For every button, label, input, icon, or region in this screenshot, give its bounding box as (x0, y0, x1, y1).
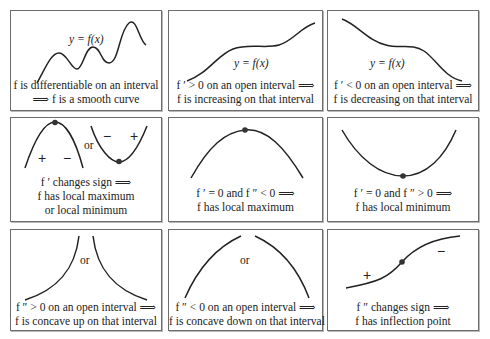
or-label: or (80, 254, 90, 266)
panel-concave-up: or f ″ > 0 on an open interval ⟹ f is co… (10, 229, 162, 331)
plus-sign: + (130, 128, 138, 144)
min-point (116, 159, 122, 165)
max-point (242, 127, 248, 133)
caption-line-1: f ″ > 0 on an open interval ⟹ (11, 300, 161, 314)
max-point (52, 120, 58, 126)
or-label: or (84, 139, 94, 151)
function-label: y = f(x) (234, 57, 269, 69)
min-curve (91, 126, 147, 162)
plus-sign: + (38, 150, 46, 166)
caption-line-2: f is concave up on that interval (11, 314, 161, 328)
caption-line-3: or local minimum (11, 203, 161, 217)
caption-line-1: f ′ < 0 on an open interval ⟹ (328, 78, 478, 92)
caption-line-2: f is increasing on that interval (169, 92, 322, 106)
or-label: or (240, 254, 250, 266)
caption-line-1: f ′ = 0 and f ″ < 0 ⟹ (169, 186, 322, 200)
caption-line-1: f ′ > 0 on an open interval ⟹ (169, 78, 322, 92)
panel-increasing: y = f(x) f ′ > 0 on an open interval ⟹ f… (168, 10, 323, 111)
panel-inflection: + − f ″ changes sign ⟹ f has inflection … (327, 229, 479, 331)
concave-down-left-curve (185, 236, 241, 298)
decreasing-curve (342, 19, 462, 81)
panel-decreasing: y = f(x) f ′ < 0 on an open interval ⟹ f… (327, 10, 479, 111)
caption-line-2: ⟹ f is a smooth curve (11, 92, 161, 106)
min-point (400, 173, 406, 179)
concave-up-curve (342, 130, 456, 176)
wavy-curve (37, 22, 146, 83)
caption-line-2: f has local maximum (169, 200, 322, 214)
panel-concave-down: or f ″ < 0 on an open interval ⟹ f is co… (168, 229, 323, 331)
concave-down-right-curve (255, 236, 309, 298)
caption-line-2: f has local maximum (11, 189, 161, 203)
minus-sign: − (63, 150, 71, 166)
panel-sign-change: + − − + or f ′ changes sign ⟹ f has loca… (10, 117, 162, 222)
increasing-curve (187, 23, 315, 81)
concave-up-right-curve (93, 236, 147, 300)
caption-line-2: f has local minimum (328, 200, 478, 214)
inflection-point (399, 259, 405, 265)
function-label: y = f(x) (370, 57, 405, 69)
caption-line-1: f ′ = 0 and f ″ > 0 ⟹ (328, 186, 478, 200)
caption-line-1: f ′ changes sign ⟹ (11, 175, 161, 189)
plus-sign: + (363, 267, 371, 283)
max-curve (25, 122, 83, 168)
caption-line-2: f is decreasing on that interval (328, 92, 478, 106)
concave-down-curve (191, 130, 303, 178)
concave-up-left-curve (25, 236, 79, 300)
caption-line-1: f ″ changes sign ⟹ (328, 300, 478, 314)
caption-line-2: f is concave down on that interval (169, 314, 322, 328)
caption-line-1: f is differentiable on an interval (11, 78, 161, 92)
caption-line-2: f has inflection point (328, 314, 478, 328)
minus-sign: − (437, 243, 445, 259)
panel-local-max: f ′ = 0 and f ″ < 0 ⟹ f has local maximu… (168, 117, 323, 222)
panel-smooth-curve: y = f(x) f is differentiable on an inter… (10, 10, 162, 111)
function-label: y = f(x) (69, 33, 104, 45)
minus-sign: − (103, 128, 111, 144)
panel-local-min: f ′ = 0 and f ″ > 0 ⟹ f has local minimu… (327, 117, 479, 222)
caption-line-1: f ″ < 0 on an open interval ⟹ (169, 300, 322, 314)
